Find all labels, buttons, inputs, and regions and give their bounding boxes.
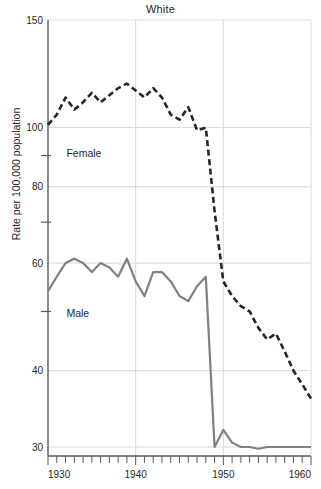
series-label-male: Male — [66, 307, 89, 319]
x-axis-ticks: 1930194019501960 — [48, 456, 311, 480]
gridlines — [48, 20, 311, 456]
y-tick-label: 30 — [32, 442, 44, 453]
data-series — [48, 84, 311, 449]
plot-area: 15010080604030 1930194019501960 FemaleMa… — [0, 0, 321, 489]
series-line-male — [48, 259, 311, 449]
x-tick-label: 1950 — [212, 469, 235, 480]
y-axis-ticks: 15010080604030 — [26, 15, 51, 453]
series-annotations: FemaleMale — [66, 147, 101, 319]
x-tick-label: 1940 — [125, 469, 148, 480]
y-tick-label: 100 — [26, 122, 43, 133]
axis-lines — [48, 20, 311, 456]
x-tick-label: 1930 — [48, 469, 71, 480]
y-tick-label: 40 — [32, 365, 44, 376]
series-line-female — [48, 84, 311, 399]
x-tick-label: 1960 — [289, 469, 312, 480]
series-label-female: Female — [66, 147, 101, 159]
y-tick-label: 60 — [32, 258, 44, 269]
chart-figure: White Rate per 100,000 population 150100… — [0, 0, 321, 489]
y-tick-label: 150 — [26, 15, 43, 26]
y-tick-label: 80 — [32, 181, 44, 192]
